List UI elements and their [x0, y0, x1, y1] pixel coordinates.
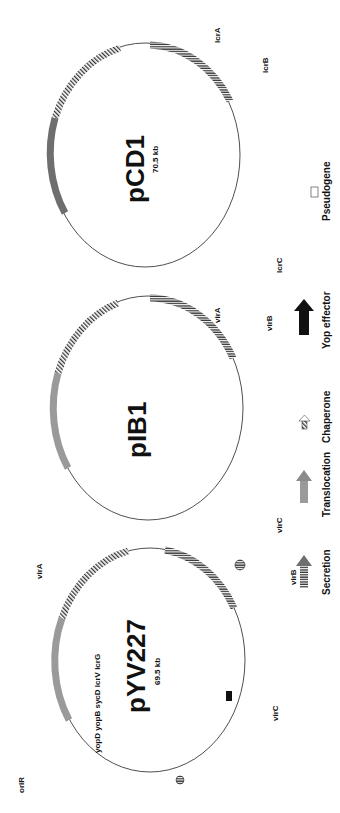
plasmid-pIB1: pIB1 virC virB virA — [53, 296, 284, 533]
chaperone-swatch — [302, 421, 307, 429]
translocation-arc — [50, 118, 65, 213]
translocation-arc — [55, 618, 69, 720]
chaperone-arrowhead-icon — [299, 415, 310, 421]
legend: Secretion Translocation Chaperone Yop ef… — [294, 161, 332, 595]
gene-label: virA — [35, 563, 44, 579]
plasmid-size: 70.5 kb — [151, 146, 160, 173]
translocation-arrowhead-icon — [296, 470, 312, 481]
plasmid-size: 69.5 kb — [153, 658, 162, 685]
gene-label: virC — [275, 517, 284, 533]
legend-item-yop-effector: Yop effector — [294, 291, 332, 349]
plasmid-title: pYV227 — [121, 619, 151, 713]
yop-effector-arrowhead-icon — [294, 299, 314, 311]
plasmid-pYV227: pYV227 69.5 kb yopD yopB sycD lcrV lcrG … — [17, 515, 298, 793]
legend-label: Pseudogene — [321, 161, 332, 221]
yop-effector-swatch — [299, 311, 309, 335]
plasmid-pCD1: pCD1 70.5 kb lcrC lcrB lcrA — [50, 27, 284, 273]
gene-label: lcrC — [275, 257, 284, 273]
legend-label: Secretion — [321, 549, 332, 595]
legend-item-chaperone: Chaperone — [299, 390, 332, 443]
yopH-arrow — [226, 691, 232, 701]
translocation-arc — [53, 373, 68, 468]
gene-label: yopD yopB sycD lcrV lcrG — [93, 654, 102, 753]
legend-label: Chaperone — [321, 390, 332, 443]
legend-label: Translocation — [321, 452, 332, 517]
translocation-swatch — [300, 481, 308, 503]
legend-label: Yop effector — [321, 291, 332, 349]
secretion-swatch — [300, 566, 308, 588]
gene-label: lcrB — [261, 57, 270, 73]
gene-label: virB — [289, 569, 298, 585]
virB-arc — [58, 303, 118, 373]
lcrC-arc — [150, 45, 230, 101]
gene-label: virC — [271, 705, 280, 721]
oriR-marker — [176, 776, 184, 784]
virC-arc — [150, 298, 233, 358]
legend-item-translocation: Translocation — [296, 452, 332, 517]
gene-label: oriR — [17, 777, 26, 793]
virC-arc — [165, 550, 234, 608]
plasmid-title: pCD1 — [120, 135, 150, 203]
secretion-arrowhead-icon — [296, 555, 312, 566]
spyC-marker — [235, 560, 245, 570]
lcrB-arc — [55, 48, 120, 118]
gene-label: virB — [265, 315, 274, 331]
pseudogene-swatch — [311, 187, 318, 197]
gene-label: virA — [213, 307, 222, 323]
virB-arc — [62, 551, 128, 618]
legend-item-pseudogene: Pseudogene — [311, 161, 332, 221]
plasmid-map-figure: pYV227 69.5 kb yopD yopB sycD lcrV lcrG … — [0, 0, 340, 813]
plasmid-title: pIB1 — [122, 402, 152, 458]
legend-item-secretion: Secretion — [296, 549, 332, 595]
gene-label: lcrA — [213, 27, 222, 43]
